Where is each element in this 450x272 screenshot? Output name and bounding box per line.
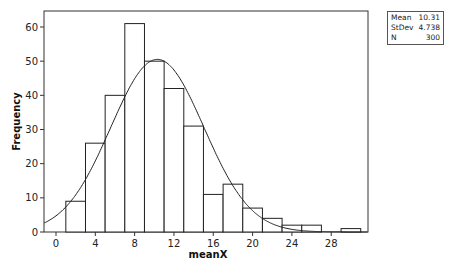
- histogram-bar: [164, 89, 184, 233]
- y-tick-label: 40: [25, 90, 38, 101]
- stdev-label: StDev: [391, 23, 414, 33]
- stats-row-n: N 300: [391, 33, 440, 43]
- x-tick-label: 4: [92, 238, 98, 249]
- y-tick-label: 0: [32, 227, 38, 238]
- histogram-bar: [243, 208, 263, 232]
- stdev-value: 4.738: [419, 23, 440, 33]
- y-tick-label: 30: [25, 124, 38, 135]
- stats-legend: Mean 10.31 StDev 4.738 N 300: [387, 11, 444, 45]
- histogram-bar: [66, 201, 86, 232]
- x-tick-label: 24: [286, 238, 299, 249]
- mean-label: Mean: [391, 13, 411, 23]
- y-tick-label: 50: [25, 56, 38, 67]
- x-tick-label: 0: [53, 238, 59, 249]
- x-tick-label: 28: [325, 238, 338, 249]
- y-tick-label: 20: [25, 158, 38, 169]
- y-tick-label: 60: [25, 22, 38, 33]
- histogram-bar: [144, 61, 164, 232]
- mean-value: 10.31: [419, 13, 440, 23]
- x-tick-label: 12: [168, 238, 181, 249]
- histogram-bar: [105, 95, 125, 232]
- stats-row-mean: Mean 10.31: [391, 13, 440, 23]
- histogram-chart: 01020304050600481216202428meanXFrequency: [0, 0, 450, 272]
- x-tick-label: 20: [246, 238, 259, 249]
- histogram-bar: [85, 143, 105, 232]
- y-tick-label: 10: [25, 192, 38, 203]
- x-tick-label: 16: [207, 238, 220, 249]
- histogram-bar: [223, 184, 243, 232]
- stats-row-stdev: StDev 4.738: [391, 23, 440, 33]
- n-label: N: [391, 33, 397, 43]
- histogram-bar: [282, 225, 302, 232]
- x-axis-label: meanX: [189, 249, 228, 260]
- histogram-bar: [203, 194, 223, 232]
- x-tick-label: 8: [131, 238, 137, 249]
- histogram-bar: [184, 126, 204, 232]
- n-value: 300: [426, 33, 440, 43]
- y-axis-label: Frequency: [11, 92, 22, 151]
- histogram-bar: [125, 24, 145, 232]
